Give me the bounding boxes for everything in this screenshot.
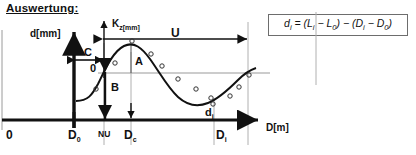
scatter-point (176, 77, 180, 81)
x-tick-label-di: Di (216, 128, 227, 143)
dimension-label-di: di (205, 106, 214, 120)
sine-curve (76, 44, 256, 105)
axis-label-d-mm: d[mm] (30, 28, 61, 39)
axis-label-d-m: D[m] (266, 122, 289, 133)
origin-label: 0 (90, 62, 96, 74)
x-tick-label-d0: D0 (68, 128, 81, 143)
x-tick-label-dc: Dc (124, 128, 137, 143)
dimension-label-u: U (171, 26, 180, 40)
scatter-point (209, 96, 213, 100)
scatter-point (160, 64, 164, 68)
scatter-point (237, 85, 241, 89)
dimension-label-c: C (84, 46, 92, 58)
diagram-canvas (0, 0, 416, 155)
axis-label-kz: Kz[mm] (112, 18, 140, 31)
dimension-label-a: A (135, 55, 143, 67)
x-tick-label-0: 0 (6, 128, 13, 142)
scatter-point (113, 61, 117, 65)
scatter-point (228, 94, 232, 98)
dimension-label-b: B (111, 81, 119, 93)
scatter-point (149, 52, 153, 56)
x-tick-label-nu: NU (98, 129, 110, 139)
scatter-point (194, 87, 198, 91)
